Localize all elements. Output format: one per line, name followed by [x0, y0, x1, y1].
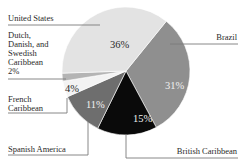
pct-label-french-caribbean: 4%: [65, 83, 79, 94]
pct-label-spanish-america: 11%: [86, 99, 105, 110]
pie-chart: 36% 31% 15% 11% 4% United States Dutch, …: [0, 0, 247, 165]
label-brazil: Brazil: [216, 32, 237, 42]
label-united-states: United States: [8, 13, 54, 23]
label-french-caribbean-line2: Caribbean: [8, 103, 44, 113]
pie-slices: [62, 7, 190, 135]
label-british-caribbean: British Caribbean: [177, 146, 238, 156]
label-spanish-america: Spanish America: [8, 144, 66, 154]
pct-label-brazil: 31%: [165, 80, 185, 91]
label-dutch-pct: 2%: [8, 66, 19, 76]
pct-label-british-caribbean: 15%: [133, 113, 153, 124]
pct-label-united-states: 36%: [110, 39, 130, 50]
